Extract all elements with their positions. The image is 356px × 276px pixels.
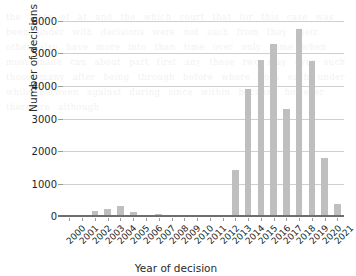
x-axis-line [58,215,344,217]
bar-slot [63,21,76,216]
x-tick-mark [274,218,275,221]
x-tick-slot: 2003 [101,218,114,258]
x-tick-slot: 2021 [331,218,344,258]
x-tick-slot: 2012 [216,218,229,258]
bar-slot [76,21,89,216]
bar [309,61,316,216]
bar-slot [89,21,102,216]
bar-slot [191,21,204,216]
x-tick-slot: 2014 [242,218,255,258]
x-tick-slot: 2001 [76,218,89,258]
x-tick-mark [261,218,262,221]
x-tick-mark [69,218,70,221]
x-tick-slot: 2018 [293,218,306,258]
bar-slot [101,21,114,216]
bar-slot [280,21,293,216]
x-tick-slot: 2010 [191,218,204,258]
bar [296,29,303,216]
x-tick-slot: 2004 [114,218,127,258]
bar [270,44,277,216]
x-tick-mark [235,218,236,221]
x-tick-mark [133,218,134,221]
x-tick-slot: 2017 [280,218,293,258]
y-tick-label: 0 [51,211,57,222]
x-tick-mark [299,218,300,221]
x-tick-slot: 2019 [306,218,319,258]
x-tick-mark [159,218,160,221]
x-tick-slot: 2020 [318,218,331,258]
x-tick-mark [337,218,338,221]
y-tick-label: 5000 [32,48,57,59]
x-tick-mark [286,218,287,221]
bar-slot [114,21,127,216]
x-tick-mark [172,218,173,221]
x-tick-mark [108,218,109,221]
x-tick-mark [82,218,83,221]
bar-slot [254,21,267,216]
bar-slot [306,21,319,216]
bar-slot [203,21,216,216]
bar-slot [331,21,344,216]
x-tick-mark [248,218,249,221]
bar [245,89,252,216]
x-tick-mark [184,218,185,221]
x-tick-mark [95,218,96,221]
bar-slot [127,21,140,216]
bar-slot [229,21,242,216]
bar [258,60,265,216]
x-tick-mark [120,218,121,221]
bar-slot [178,21,191,216]
x-tick-slot: 2006 [140,218,153,258]
bar-slot [267,21,280,216]
bar [321,158,328,217]
bar-series [63,21,344,216]
x-tick-slot: 2008 [165,218,178,258]
x-tick-mark [197,218,198,221]
plot-area: 0100020003000400050006000 [63,21,344,216]
x-axis-tick-labels: 2000200120022003200420052006200720082009… [63,218,344,258]
x-tick-slot: 2016 [267,218,280,258]
x-tick-slot: 2007 [152,218,165,258]
x-tick-slot: 2009 [178,218,191,258]
bar-slot [140,21,153,216]
x-tick-mark [223,218,224,221]
bar [334,204,341,216]
x-tick-slot: 2011 [203,218,216,258]
bar [232,170,239,216]
x-tick-mark [146,218,147,221]
x-tick-slot: 2002 [89,218,102,258]
bar-slot [293,21,306,216]
x-tick-mark [312,218,313,221]
bar-slot [242,21,255,216]
x-tick-label: 2021 [333,223,356,246]
x-tick-mark [325,218,326,221]
x-tick-slot: 2005 [127,218,140,258]
bar-slot [165,21,178,216]
y-tick-label: 4000 [32,80,57,91]
y-tick-label: 3000 [32,113,57,124]
y-tick-label: 1000 [32,178,57,189]
bar-slot [318,21,331,216]
x-tick-mark [210,218,211,221]
bar-slot [216,21,229,216]
x-axis-title: Year of decision [0,262,352,274]
bar-slot [152,21,165,216]
bar [283,109,290,216]
y-tick-label: 6000 [32,16,57,27]
x-tick-slot: 2015 [254,218,267,258]
x-tick-slot: 2000 [63,218,76,258]
x-tick-slot: 2013 [229,218,242,258]
y-tick-label: 2000 [32,145,57,156]
